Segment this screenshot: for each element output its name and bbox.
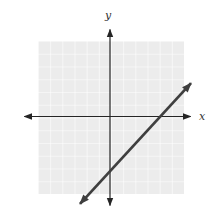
y-axis-label: y [104, 9, 112, 22]
coordinate-plane: y x [0, 0, 217, 211]
graph-figure: y x [0, 0, 217, 211]
x-axis-label: x [199, 110, 206, 123]
